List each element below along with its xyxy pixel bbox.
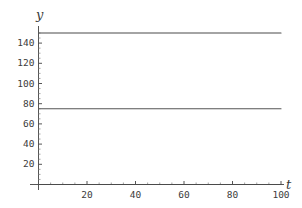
x-tick-label: 40 [122,190,150,200]
chart-canvas [0,0,302,208]
x-tick-label: 80 [219,190,247,200]
x-tick-label: 20 [73,190,101,200]
y-tick-label: 60 [2,119,35,129]
axis-group [30,26,284,190]
y-tick-marks [39,33,43,179]
y-tick-label: 40 [2,139,35,149]
data-series-group [39,33,282,185]
x-tick-label: 100 [267,190,295,200]
y-tick-label: 120 [2,58,35,68]
x-tick-label: 60 [170,190,198,200]
y-tick-label: 140 [2,38,35,48]
chart-container: y t 2040608010020406080100120140 [0,0,302,208]
y-tick-label: 80 [2,99,35,109]
y-axis-label: y [36,8,43,21]
y-tick-label: 20 [2,159,35,169]
y-tick-label: 100 [2,79,35,89]
